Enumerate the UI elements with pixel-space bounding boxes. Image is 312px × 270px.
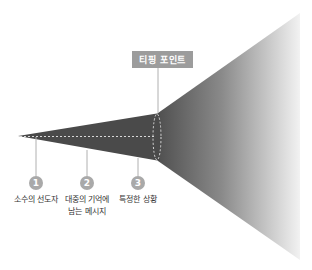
step-3-label: 특정한 상황 bbox=[119, 194, 157, 206]
step-1-badge: 1 bbox=[29, 176, 43, 190]
step-3-label-line-1: 특정한 상황 bbox=[119, 194, 157, 206]
step-1-label: 소수의 선도자 bbox=[14, 194, 59, 206]
step-3-badge: 3 bbox=[131, 176, 145, 190]
step-2-badge: 2 bbox=[80, 176, 94, 190]
step-2-label-line-1: 대중의 기억에 bbox=[65, 194, 110, 206]
step-1-label-line-1: 소수의 선도자 bbox=[14, 194, 59, 206]
step-2-label: 대중의 기억에 남는 메시지 bbox=[65, 194, 110, 218]
tipping-point-diagram bbox=[0, 0, 312, 270]
tipping-point-label: 티핑 포인트 bbox=[132, 51, 193, 68]
step-2-label-line-2: 남는 메시지 bbox=[65, 206, 110, 218]
